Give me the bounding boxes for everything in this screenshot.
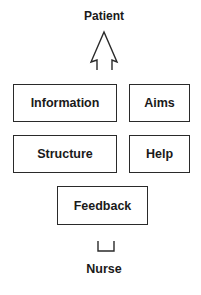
help-box: Help xyxy=(129,135,190,173)
information-box: Information xyxy=(13,84,117,122)
cup-bracket-icon xyxy=(98,241,114,251)
structure-box: Structure xyxy=(13,135,117,173)
open-arrow-up-icon xyxy=(91,32,117,70)
nurse-label: Nurse xyxy=(74,262,134,276)
feedback-box: Feedback xyxy=(57,186,148,225)
aims-box: Aims xyxy=(129,84,190,122)
